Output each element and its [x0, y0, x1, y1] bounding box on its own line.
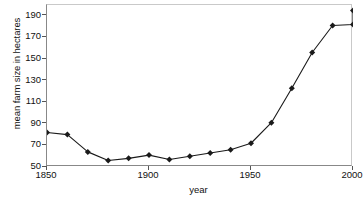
data-point-marker: [350, 21, 353, 27]
data-point-marker: [47, 129, 50, 135]
data-point-marker: [350, 7, 353, 13]
x-axis-tick-label: 2000: [341, 169, 362, 180]
y-axis-title: mean farm size in hectares: [11, 0, 22, 154]
data-point-marker: [228, 147, 234, 153]
data-point-marker: [289, 85, 295, 91]
data-point-marker: [126, 155, 132, 161]
data-point-marker: [105, 158, 111, 164]
x-axis-tick-label: 1850: [35, 169, 56, 180]
plot-area: [46, 4, 352, 166]
x-axis-title-wrap: year: [0, 184, 361, 195]
data-series-svg: [47, 5, 353, 167]
data-line: [47, 10, 353, 160]
data-point-marker: [207, 150, 213, 156]
x-axis-tick-label: 1900: [137, 169, 158, 180]
x-axis-tick-label: 1950: [239, 169, 260, 180]
x-axis-title: year: [189, 184, 207, 195]
data-point-marker: [187, 153, 193, 159]
data-point-marker: [146, 152, 152, 158]
data-point-marker: [166, 156, 172, 162]
